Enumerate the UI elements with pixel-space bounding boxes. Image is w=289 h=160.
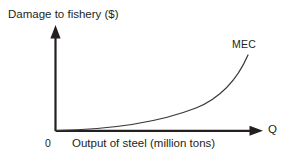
x-axis-title: Output of steel (million tons) bbox=[72, 138, 215, 150]
mec-curve-label: MEC bbox=[232, 39, 256, 50]
origin-label: 0 bbox=[45, 138, 51, 149]
mec-externality-chart bbox=[0, 0, 289, 160]
x-axis-variable-label: Q bbox=[268, 124, 277, 136]
chart-background bbox=[0, 0, 289, 160]
y-axis-title: Damage to fishery ($) bbox=[8, 9, 119, 21]
